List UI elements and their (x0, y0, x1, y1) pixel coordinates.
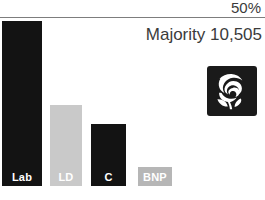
bar-chart-plot: Lab LD C BNP (0, 0, 265, 200)
bar-label-c: C (104, 171, 112, 186)
bar-bnp: BNP (138, 167, 172, 186)
bar-label-lab: Lab (12, 171, 32, 186)
bar-lab: Lab (2, 21, 42, 186)
bar-c: C (91, 124, 126, 186)
bar-ld: LD (50, 105, 82, 186)
bar-label-bnp: BNP (143, 171, 167, 186)
election-result-infographic: 50% Majority 10,505 L (0, 0, 265, 200)
bar-label-ld: LD (58, 171, 73, 186)
